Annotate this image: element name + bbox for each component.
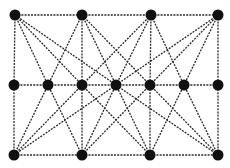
- node-B1: [77, 150, 88, 161]
- node-T1: [77, 10, 88, 21]
- edge-T0-M1: [15, 15, 48, 85]
- node-T3: [213, 10, 224, 21]
- graph-diagram: [0, 0, 230, 168]
- edge-B3-M3: [116, 85, 218, 155]
- node-M4: [145, 80, 156, 91]
- edge-B2-M3: [116, 85, 150, 155]
- node-B0: [9, 150, 20, 161]
- edge-B1-M3: [82, 85, 116, 155]
- edge-B0-M2: [14, 85, 82, 155]
- edge-T3-M3: [116, 15, 218, 85]
- node-M0: [9, 80, 20, 91]
- node-M1: [43, 80, 54, 91]
- edge-B3-M4: [150, 85, 218, 155]
- edge-T3-M4: [150, 15, 218, 85]
- node-M2: [77, 80, 88, 91]
- node-T0: [10, 10, 21, 21]
- node-M6: [213, 80, 224, 91]
- edge-T0-M2: [15, 15, 82, 85]
- edge-T3-M5: [184, 15, 218, 85]
- node-B3: [213, 150, 224, 161]
- node-T2: [146, 10, 157, 21]
- edge-B0-M1: [14, 85, 48, 155]
- edge-T1-M1: [48, 15, 82, 85]
- node-M5: [179, 80, 190, 91]
- edge-B1-M1: [48, 85, 82, 155]
- edge-T0-M0: [14, 15, 15, 85]
- node-B2: [145, 150, 156, 161]
- edge-T1-M3: [82, 15, 116, 85]
- edge-T2-M4: [150, 15, 151, 85]
- edge-T2-M3: [116, 15, 151, 85]
- node-M3: [111, 80, 122, 91]
- edge-B3-M5: [184, 85, 218, 155]
